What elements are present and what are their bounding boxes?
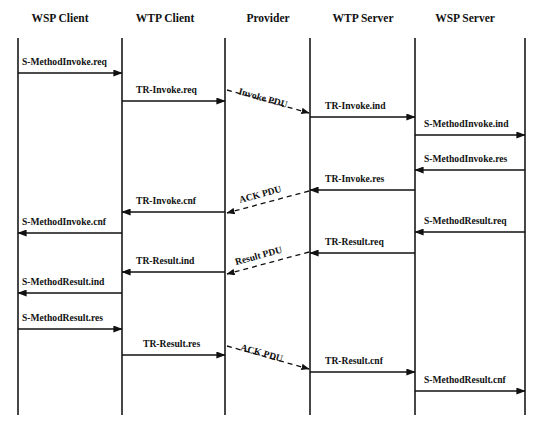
message-label-m7: TR-Invoke.cnf [136,195,197,206]
lifeline-labels-group: WSP ClientWTP ClientProviderWTP ServerWS… [31,12,494,24]
lifeline-label-wtp-client: WTP Client [136,12,195,24]
message-label-m5: S-MethodInvoke.res [424,153,508,164]
message-label-m15: TR-Result.cnf [325,355,384,366]
message-label-m13: S-MethodResult.res [22,312,103,323]
message-label-m16: S-MethodResult.cnf [424,374,507,385]
lifeline-label-wsp-server: WSP Server [435,12,495,24]
message-label-m11: TR-Result.ind [136,255,195,266]
messages-group: S-MethodInvoke.reqTR-Invoke.reqTR-Invoke… [18,56,525,391]
message-label-m2: TR-Invoke.req [136,84,198,95]
message-label-m12: S-MethodResult.ind [22,276,105,287]
pdu-label-p3: Result PDU [234,244,284,267]
lifeline-label-provider: Provider [246,12,289,24]
message-label-m9: S-MethodResult.req [424,215,507,226]
message-label-m6: TR-Invoke.res [325,173,385,184]
sequence-diagram-canvas: WSP ClientWTP ClientProviderWTP ServerWS… [0,0,534,425]
message-label-m4: S-MethodInvoke.ind [424,118,509,129]
message-label-m1: S-MethodInvoke.req [22,56,108,67]
pdu-label-p2: ACK PDU [238,183,283,205]
pdu-messages-group: Invoke PDUACK PDUResult PDUACK PDU [227,85,309,369]
sequence-diagram-svg: WSP ClientWTP ClientProviderWTP ServerWS… [0,0,534,425]
lifeline-label-wtp-server: WTP Server [333,12,394,24]
message-label-m8: S-MethodInvoke.cnf [22,216,107,227]
message-label-m14: TR-Result.res [143,338,200,349]
message-label-m10: TR-Result.req [325,236,384,247]
message-label-m3: TR-Invoke.ind [325,100,386,111]
pdu-label-p4: ACK PDU [239,341,284,364]
pdu-label-p1: Invoke PDU [237,85,289,109]
lifeline-label-wsp-client: WSP Client [31,12,88,24]
